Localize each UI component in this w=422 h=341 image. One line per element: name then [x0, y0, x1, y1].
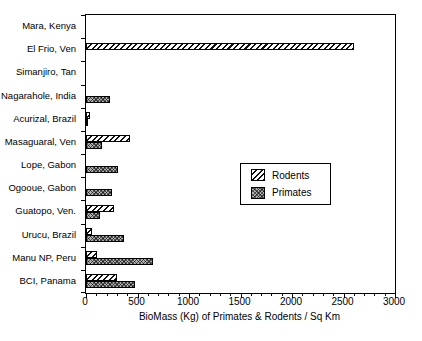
x-tick-label: 1000 [177, 296, 199, 307]
category-label: Manu NP, Peru [0, 246, 79, 269]
legend-entry-primates: Primates [251, 187, 330, 199]
primates-bar [86, 119, 88, 126]
y-axis-tick [81, 61, 85, 62]
rodents-bar [86, 274, 117, 281]
y-axis-tick [81, 154, 85, 155]
bar-group [86, 247, 395, 270]
bar-group [86, 15, 395, 38]
category-label: Nagarahole, India [0, 84, 79, 107]
rodents-bar [86, 112, 90, 119]
bar-group [86, 131, 395, 154]
category-label: Ogooue, Gabon [0, 176, 79, 199]
rodents-bar [86, 205, 114, 212]
primates-bar [86, 212, 100, 219]
rodents-bar [86, 228, 92, 235]
legend: Rodents Primates [240, 163, 331, 205]
bar-group [86, 38, 395, 61]
x-tick-label: 0 [82, 296, 88, 307]
y-axis-tick [81, 108, 85, 109]
x-tick-label: 500 [128, 296, 145, 307]
primates-bar [86, 235, 124, 242]
bar-group [86, 61, 395, 84]
primates-bar [86, 189, 112, 196]
y-axis-tick [81, 200, 85, 201]
y-axis-tick [81, 292, 85, 293]
rodents-swatch-icon [251, 169, 265, 181]
rodents-bar [86, 135, 130, 142]
bar-group [86, 108, 395, 131]
category-label: Mara, Kenya [0, 14, 79, 37]
y-axis-tick [81, 85, 85, 86]
y-axis-labels: Mara, KenyaEl Frio, VenSimanjiro, TanNag… [0, 14, 79, 292]
primates-bar [86, 281, 135, 288]
y-axis-tick [81, 224, 85, 225]
bar-group [86, 270, 395, 293]
category-label: Urucu, Brazil [0, 223, 79, 246]
legend-label-primates: Primates [272, 187, 311, 198]
legend-label-rodents: Rodents [272, 170, 309, 181]
x-tick-label: 3000 [383, 296, 405, 307]
rodents-bar [86, 43, 354, 50]
category-label: Simanjiro, Tan [0, 60, 79, 83]
primates-swatch-icon [251, 187, 265, 199]
y-axis-tick [81, 15, 85, 16]
x-tick-label: 1500 [228, 296, 250, 307]
primates-bar [86, 166, 118, 173]
x-tick-label: 2500 [331, 296, 353, 307]
legend-entry-rodents: Rodents [251, 169, 330, 181]
x-tick-label: 2000 [280, 296, 302, 307]
category-label: Lope, Gabon [0, 153, 79, 176]
primates-bar [86, 142, 102, 149]
primates-bar [86, 258, 153, 265]
category-label: Masaguaral, Ven [0, 130, 79, 153]
x-axis-title: BioMass (Kg) of Primates & Rodents / Sq … [85, 311, 394, 322]
rodents-bar [86, 251, 97, 258]
category-label: El Frio, Ven [0, 37, 79, 60]
bar-group [86, 224, 395, 247]
y-axis-tick [81, 247, 85, 248]
category-label: BCI, Panama [0, 269, 79, 292]
y-axis-tick [81, 131, 85, 132]
primates-bar [86, 96, 110, 103]
figure: Mara, KenyaEl Frio, VenSimanjiro, TanNag… [0, 0, 422, 341]
y-axis-tick [81, 270, 85, 271]
x-axis-tick-labels: 050010001500200025003000 [0, 296, 422, 308]
bar-group [86, 85, 395, 108]
y-axis-tick [81, 177, 85, 178]
category-label: Guatopo, Ven. [0, 199, 79, 222]
plot-area [85, 14, 396, 294]
y-axis-tick [81, 38, 85, 39]
category-label: Acurizal, Brazil [0, 107, 79, 130]
